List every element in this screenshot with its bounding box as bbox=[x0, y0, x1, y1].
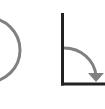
diagram-canvas bbox=[0, 0, 105, 109]
curved-arrow-icon bbox=[64, 48, 104, 82]
circle-shape bbox=[0, 18, 20, 82]
